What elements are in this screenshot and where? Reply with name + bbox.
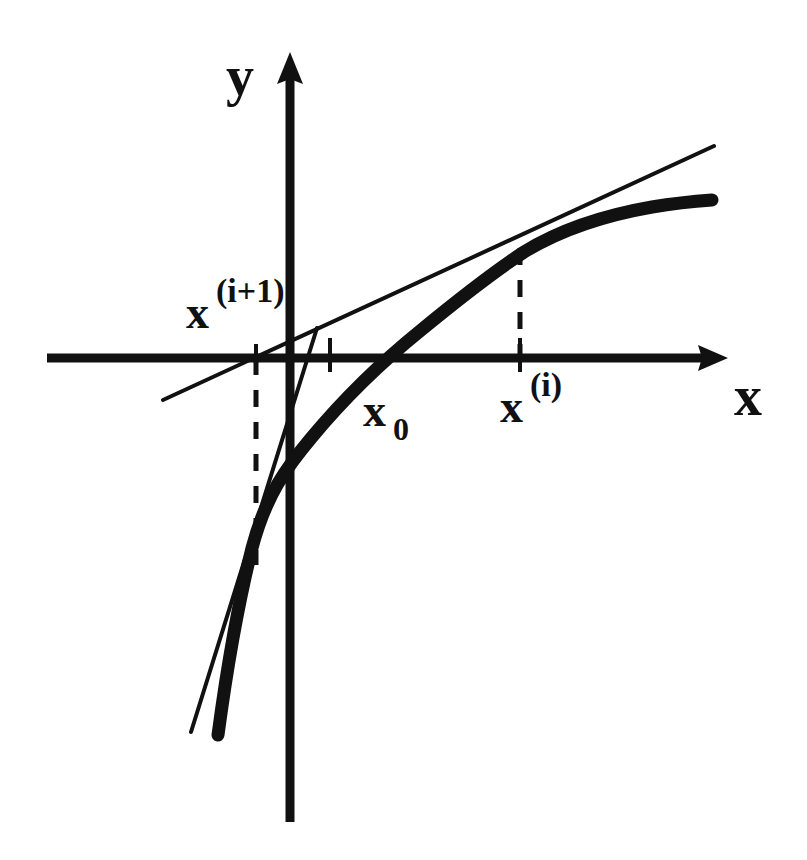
figure-root: y x x (i+1) x 0 x (i) xyxy=(0,0,807,860)
x-axis-arrowhead xyxy=(698,345,728,371)
label-next-iterate-superscript: (i+1) xyxy=(216,272,284,310)
y-axis-label: y xyxy=(226,45,254,107)
newton-raphson-diagram: y x x (i+1) x 0 x (i) xyxy=(0,0,807,860)
tangent-lines-group xyxy=(163,146,714,732)
label-next-iterate-base: x xyxy=(186,287,209,338)
axis-name-labels: y x xyxy=(226,45,762,427)
label-current-iterate: x (i) xyxy=(500,366,562,432)
label-root-subscript: 0 xyxy=(393,411,409,447)
label-root-base: x xyxy=(363,385,386,436)
label-current-iterate-superscript: (i) xyxy=(530,366,562,404)
label-next-iterate: x (i+1) xyxy=(186,272,284,338)
x-axis-label: x xyxy=(734,365,762,427)
axes-group xyxy=(47,52,728,822)
label-current-iterate-base: x xyxy=(500,381,523,432)
label-root: x 0 xyxy=(363,385,409,447)
